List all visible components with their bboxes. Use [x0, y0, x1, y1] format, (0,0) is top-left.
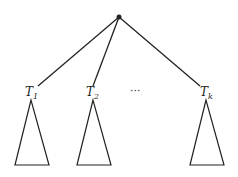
- tree-diagram: T1T2Tk···: [0, 0, 238, 177]
- edge-root-to-subtree-1: [38, 17, 119, 86]
- subtree-triangle-1: [15, 100, 49, 165]
- root-node: [117, 15, 122, 20]
- subtree-triangle-3: [190, 100, 224, 165]
- subtree-label-2: T2: [86, 85, 99, 101]
- edge-root-to-subtree-3: [119, 17, 200, 86]
- subtree-label-1: T1: [25, 85, 38, 101]
- ellipsis: ···: [130, 85, 141, 98]
- subtree-label-3: Tk: [200, 85, 213, 101]
- subtree-triangle-2: [77, 100, 111, 165]
